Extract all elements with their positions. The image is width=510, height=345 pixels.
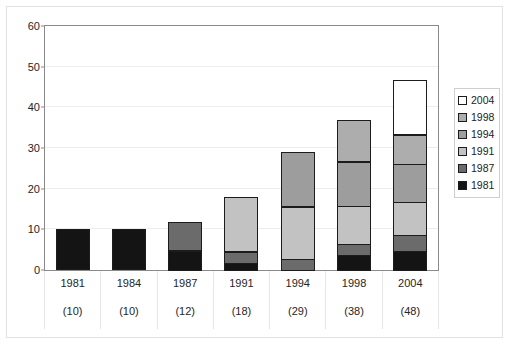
- legend-item-1987[interactable]: 1987: [458, 160, 496, 177]
- x-tick-sublabel: (29): [288, 306, 308, 317]
- x-tick-sublabel: (38): [344, 306, 364, 317]
- y-tick-label: 30: [28, 143, 40, 154]
- plot-area: 0102030405060: [44, 25, 439, 271]
- bar-slot: [270, 26, 326, 270]
- legend-item-1991[interactable]: 1991: [458, 143, 496, 160]
- x-tick-label: 1984: [117, 278, 141, 289]
- legend-swatch-icon: [458, 96, 467, 105]
- legend-swatch-icon: [458, 147, 467, 156]
- top-edge-artifact: °: [249, 0, 257, 2]
- x-tick-sublabel: (10): [119, 306, 139, 317]
- bar-segment[interactable]: [168, 222, 202, 250]
- stacked-bar[interactable]: [281, 152, 315, 270]
- x-tick-label: 2004: [398, 278, 422, 289]
- x-tick-label: 1991: [229, 278, 253, 289]
- stacked-bar[interactable]: [168, 222, 202, 270]
- x-tick-sublabel: (48): [401, 306, 421, 317]
- bar-segment[interactable]: [337, 120, 371, 163]
- bar-segment[interactable]: [393, 251, 427, 271]
- legend-label: 2004: [471, 95, 494, 106]
- legend-item-1981[interactable]: 1981: [458, 177, 496, 194]
- x-tick-label: 1994: [286, 278, 310, 289]
- bar-segment[interactable]: [56, 229, 90, 270]
- x-tick-sublabel: (18): [232, 306, 252, 317]
- legend-swatch-icon: [458, 181, 467, 190]
- bar-slot: [101, 26, 157, 270]
- legend-label: 1981: [471, 180, 494, 191]
- bar-segment[interactable]: [337, 162, 371, 207]
- y-tick-label: 20: [28, 183, 40, 194]
- bar-slot: [213, 26, 269, 270]
- stacked-bar[interactable]: [337, 120, 371, 270]
- x-tick-label: 1998: [342, 278, 366, 289]
- bar-segment[interactable]: [112, 229, 146, 270]
- legend-swatch-icon: [458, 130, 467, 139]
- bar-segment[interactable]: [337, 206, 371, 245]
- legend-label: 1991: [471, 146, 494, 157]
- bar-segment[interactable]: [393, 235, 427, 251]
- x-axis-column: 1991(18): [214, 271, 270, 329]
- y-tick-label: 10: [28, 224, 40, 235]
- legend-swatch-icon: [458, 113, 467, 122]
- y-tick-label: 50: [28, 61, 40, 72]
- x-axis-label-table: 1981(10)1984(10)1987(12)1991(18)1994(29)…: [44, 271, 439, 329]
- bar-segment[interactable]: [393, 135, 427, 166]
- bar-segment[interactable]: [337, 255, 371, 271]
- bar-slot: [382, 26, 438, 270]
- x-tick-sublabel: (10): [63, 306, 83, 317]
- x-tick-sublabel: (12): [175, 306, 195, 317]
- x-axis-column: 1984(10): [101, 271, 157, 329]
- x-axis-column: 1994(29): [270, 271, 326, 329]
- stacked-bar[interactable]: [393, 80, 427, 270]
- legend-label: 1987: [471, 163, 494, 174]
- x-tick-label: 1987: [173, 278, 197, 289]
- x-axis-column: 1981(10): [44, 271, 101, 329]
- x-axis-column: 1998(38): [326, 271, 382, 329]
- stacked-bar[interactable]: [224, 197, 258, 270]
- legend-label: 1998: [471, 112, 494, 123]
- bar-segment[interactable]: [224, 263, 258, 271]
- bar-segment[interactable]: [393, 80, 427, 135]
- stacked-bar[interactable]: [56, 229, 90, 270]
- chart-page: ° 0102030405060 1981(10)1984(10)1987(12)…: [0, 0, 510, 345]
- legend-item-1998[interactable]: 1998: [458, 109, 496, 126]
- bar-segment[interactable]: [281, 207, 315, 260]
- legend-item-1994[interactable]: 1994: [458, 126, 496, 143]
- y-tick-label: 40: [28, 102, 40, 113]
- bar-slot: [326, 26, 382, 270]
- x-axis-column: 2004(48): [383, 271, 439, 329]
- x-axis-column: 1987(12): [158, 271, 214, 329]
- bar-segment[interactable]: [281, 259, 315, 271]
- legend-item-2004[interactable]: 2004: [458, 92, 496, 109]
- chart-legend: 200419981994199119871981: [454, 88, 500, 198]
- bar-segment[interactable]: [393, 164, 427, 203]
- bar-slot: [45, 26, 101, 270]
- y-tick-label: 0: [34, 265, 40, 276]
- bar-segment[interactable]: [393, 202, 427, 237]
- stacked-bar[interactable]: [112, 229, 146, 270]
- bar-slot: [157, 26, 213, 270]
- x-tick-label: 1981: [60, 278, 84, 289]
- legend-swatch-icon: [458, 164, 467, 173]
- bar-segment[interactable]: [224, 197, 258, 252]
- bar-segment[interactable]: [281, 152, 315, 207]
- y-tick-label: 60: [28, 21, 40, 32]
- legend-label: 1994: [471, 129, 494, 140]
- bar-segment[interactable]: [168, 251, 202, 271]
- bar-series-group: [45, 26, 438, 270]
